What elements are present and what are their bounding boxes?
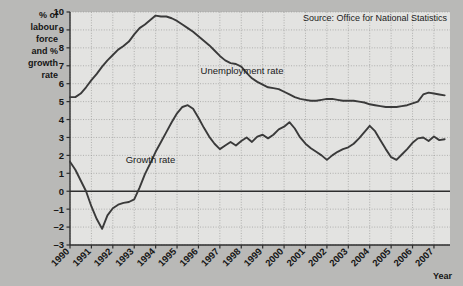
y-axis-title-line: % of	[39, 10, 59, 20]
plot-area-background	[70, 12, 450, 245]
y-tick-label: 1	[59, 168, 65, 179]
y-tick-label: 3	[59, 132, 64, 143]
y-tick-label: 5	[59, 96, 65, 107]
y-tick-label: 9	[59, 24, 64, 35]
y-tick-label: 7	[59, 60, 64, 71]
series-label: Unemployment rate	[201, 65, 284, 76]
y-axis-title-line: labour	[30, 22, 58, 32]
y-tick-label: 6	[59, 78, 64, 89]
y-axis-title-line: and %	[31, 46, 58, 56]
y-axis-title-line: growth	[28, 58, 58, 68]
x-axis-title: Year	[433, 271, 453, 281]
y-tick-label: 0	[59, 186, 64, 197]
y-tick-label: –1	[53, 204, 64, 215]
chart-page: –3–2–1012345678910 199019911992199319941…	[0, 0, 463, 286]
y-tick-label: 2	[59, 150, 64, 161]
y-tick-label: –2	[53, 221, 64, 232]
source-attribution: Source: Office for National Statistics	[303, 13, 447, 23]
y-tick-label: 8	[59, 42, 64, 53]
y-axis-title-line: force	[36, 34, 58, 44]
series-label: Growth rate	[126, 154, 176, 165]
y-axis-title-line: rate	[41, 70, 58, 80]
unemployment-growth-line-chart: –3–2–1012345678910 199019911992199319941…	[0, 0, 463, 286]
y-tick-label: 4	[59, 114, 65, 125]
